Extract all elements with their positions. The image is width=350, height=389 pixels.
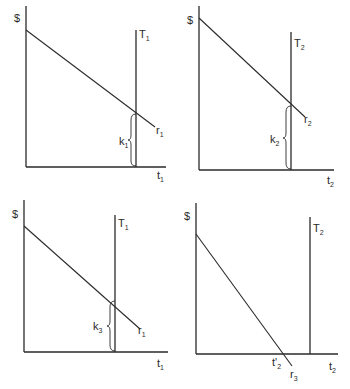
- brace-k1: [128, 114, 136, 166]
- brace-label: k2: [270, 133, 280, 147]
- vertical-line-label: T2: [294, 37, 305, 51]
- cost-line-r3: [196, 234, 292, 366]
- diagram-canvas: $ T1 r1 k1 t1 $ T2 r2 k2 t2 $ T1 r1 k3 t…: [0, 0, 350, 389]
- intercept-label: t'2: [272, 356, 281, 370]
- panel-bottom-left: $ T1 r1 k3 t1: [12, 200, 168, 371]
- vertical-line-label: T1: [118, 217, 129, 231]
- line-label: r3: [290, 368, 298, 382]
- vertical-line-label: T2: [313, 222, 324, 236]
- panel-bottom-right: $ T2 t'2 r3 t2: [184, 203, 338, 382]
- brace-k3: [107, 301, 115, 351]
- y-axis-label: $: [12, 208, 18, 220]
- brace-k2: [283, 106, 291, 169]
- vertical-line-label: T1: [139, 28, 150, 42]
- y-axis-label: $: [14, 12, 20, 24]
- x-axis-label: t2: [329, 360, 336, 374]
- y-axis-label: $: [187, 14, 193, 26]
- line-label: r2: [304, 113, 312, 127]
- brace-label: k3: [93, 320, 103, 334]
- y-axis-label: $: [184, 210, 190, 222]
- brace-label: k1: [119, 135, 129, 149]
- cost-line-r1: [24, 226, 140, 329]
- x-axis-label: t2: [327, 174, 334, 188]
- panel-top-left: $ T1 r1 k1 t1: [14, 6, 166, 183]
- x-axis-label: t1: [157, 357, 164, 371]
- line-label: r1: [138, 324, 146, 338]
- line-label: r1: [156, 124, 164, 138]
- x-axis-label: t1: [157, 169, 164, 183]
- cost-line-r2: [199, 18, 305, 117]
- panel-top-right: $ T2 r2 k2 t2: [187, 6, 334, 188]
